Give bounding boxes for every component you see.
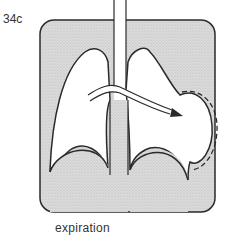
lung-diagram xyxy=(0,0,239,240)
figure-caption: expiration xyxy=(0,221,165,235)
right-diaphragm xyxy=(130,150,188,212)
trachea xyxy=(114,0,126,100)
